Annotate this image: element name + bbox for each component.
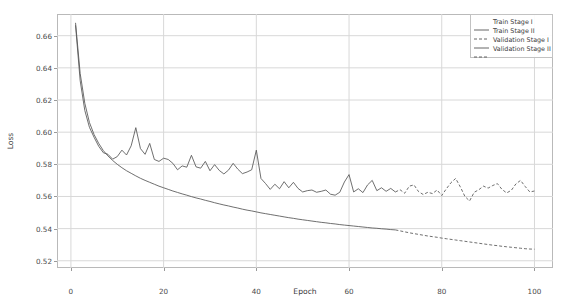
- x-tick-mark: [534, 268, 535, 271]
- x-tick-mark: [349, 268, 350, 271]
- series-line: [76, 25, 396, 195]
- legend-label: Train Stage I: [493, 18, 533, 27]
- y-tick-label: 0.54: [36, 224, 52, 233]
- legend-swatch-icon: [473, 28, 490, 36]
- x-tick-mark: [442, 268, 443, 271]
- x-tick-label: 80: [437, 287, 446, 296]
- legend-item[interactable]: Train Stage II: [473, 27, 549, 36]
- y-tick-mark: [54, 261, 57, 262]
- y-tick-mark: [54, 164, 57, 165]
- y-tick-label: 0.58: [36, 160, 52, 169]
- y-axis-title: Loss: [6, 133, 15, 150]
- legend-item[interactable]: Validation Stage I: [473, 36, 549, 45]
- x-tick-mark: [71, 268, 72, 271]
- y-tick-mark: [54, 196, 57, 197]
- legend-label: Train Stage II: [493, 27, 535, 36]
- legend-item[interactable]: Train Stage I: [473, 18, 549, 27]
- x-tick-label: 100: [528, 287, 542, 296]
- legend-swatch-icon: [473, 37, 490, 45]
- legend-item[interactable]: Validation Stage II: [473, 45, 549, 54]
- y-tick-mark: [54, 132, 57, 133]
- legend-swatch-icon: [473, 46, 490, 54]
- y-tick-mark: [54, 68, 57, 69]
- x-tick-label: 0: [69, 287, 74, 296]
- x-tick-label: 60: [344, 287, 353, 296]
- chart-legend: Train Stage ITrain Stage IIValidation St…: [470, 14, 553, 58]
- y-tick-mark: [54, 100, 57, 101]
- data-lines: [76, 23, 535, 249]
- legend-swatch-icon: [473, 19, 490, 27]
- x-tick-label: 40: [252, 287, 261, 296]
- y-tick-label: 0.52: [36, 256, 52, 265]
- series-line: [76, 23, 396, 230]
- legend-label: Validation Stage II: [493, 45, 551, 54]
- chart-figure: Loss Epoch 020406080100 Train Stage ITra…: [0, 0, 569, 305]
- x-axis-title: Epoch: [293, 287, 316, 296]
- y-tick-mark: [54, 36, 57, 37]
- y-tick-label: 0.64: [36, 63, 52, 72]
- x-tick-label: 20: [159, 287, 168, 296]
- x-tick-mark: [256, 268, 257, 271]
- legend-label: Validation Stage I: [493, 36, 549, 45]
- y-tick-label: 0.66: [36, 31, 52, 40]
- x-tick-mark: [164, 268, 165, 271]
- series-line: [395, 230, 534, 249]
- y-tick-label: 0.56: [36, 192, 52, 201]
- y-tick-mark: [54, 229, 57, 230]
- y-tick-label: 0.62: [36, 96, 52, 105]
- y-tick-label: 0.60: [36, 128, 52, 137]
- series-line: [395, 178, 534, 201]
